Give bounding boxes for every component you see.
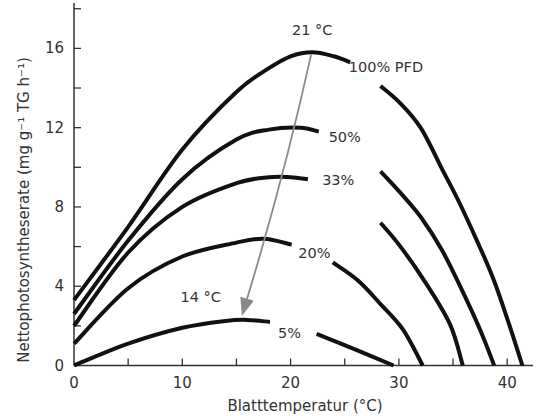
y-tick-label: 8 <box>54 198 64 216</box>
y-tick-label: 12 <box>45 119 64 137</box>
y-tick-label: 16 <box>45 39 64 57</box>
curve-33- <box>74 177 463 366</box>
x-ticks: 010203040 <box>69 359 517 392</box>
annotation-label: 33% <box>322 172 354 188</box>
x-axis-title: Blatttemperatur (°C) <box>227 397 382 415</box>
y-tick-label: 4 <box>54 277 64 295</box>
y-ticks: 0481216 <box>45 9 81 375</box>
curve-segment-falling <box>333 262 423 365</box>
x-tick-label: 40 <box>498 374 517 392</box>
x-tick-label: 10 <box>173 374 192 392</box>
curve-segment-falling <box>381 171 495 365</box>
curve-segment-falling <box>381 223 463 366</box>
chart: 010203040 0481216 Blatttemperatur (°C) N… <box>0 0 541 416</box>
curve-100-pfd <box>74 52 522 365</box>
curve-5- <box>74 320 394 366</box>
curves <box>74 52 522 365</box>
curve-segment-rising <box>74 52 350 300</box>
annotation-label: 100% PFD <box>349 59 423 75</box>
x-tick-label: 20 <box>281 374 300 392</box>
annotation-label: 14 °C <box>180 289 220 305</box>
curve-segment-rising <box>74 128 319 314</box>
curve-segment-falling <box>317 334 394 366</box>
curve-segment-rising <box>74 320 270 366</box>
y-tick-label: 0 <box>54 357 64 375</box>
arrow-head-icon <box>240 297 253 316</box>
optimum-shift-arrow <box>240 54 311 316</box>
x-tick-label: 30 <box>389 374 408 392</box>
annotation-label: 20% <box>298 245 330 261</box>
annotations: 21 °C14 °C100% PFD50%33%20%5% <box>180 22 423 341</box>
annotation-label: 21 °C <box>292 22 332 38</box>
annotation-label: 50% <box>329 129 361 145</box>
x-tick-label: 0 <box>69 374 79 392</box>
y-axis-title: Nettophotosyntheserate (mg g⁻¹ TG h⁻¹) <box>15 57 33 363</box>
annotation-label: 5% <box>278 325 301 341</box>
